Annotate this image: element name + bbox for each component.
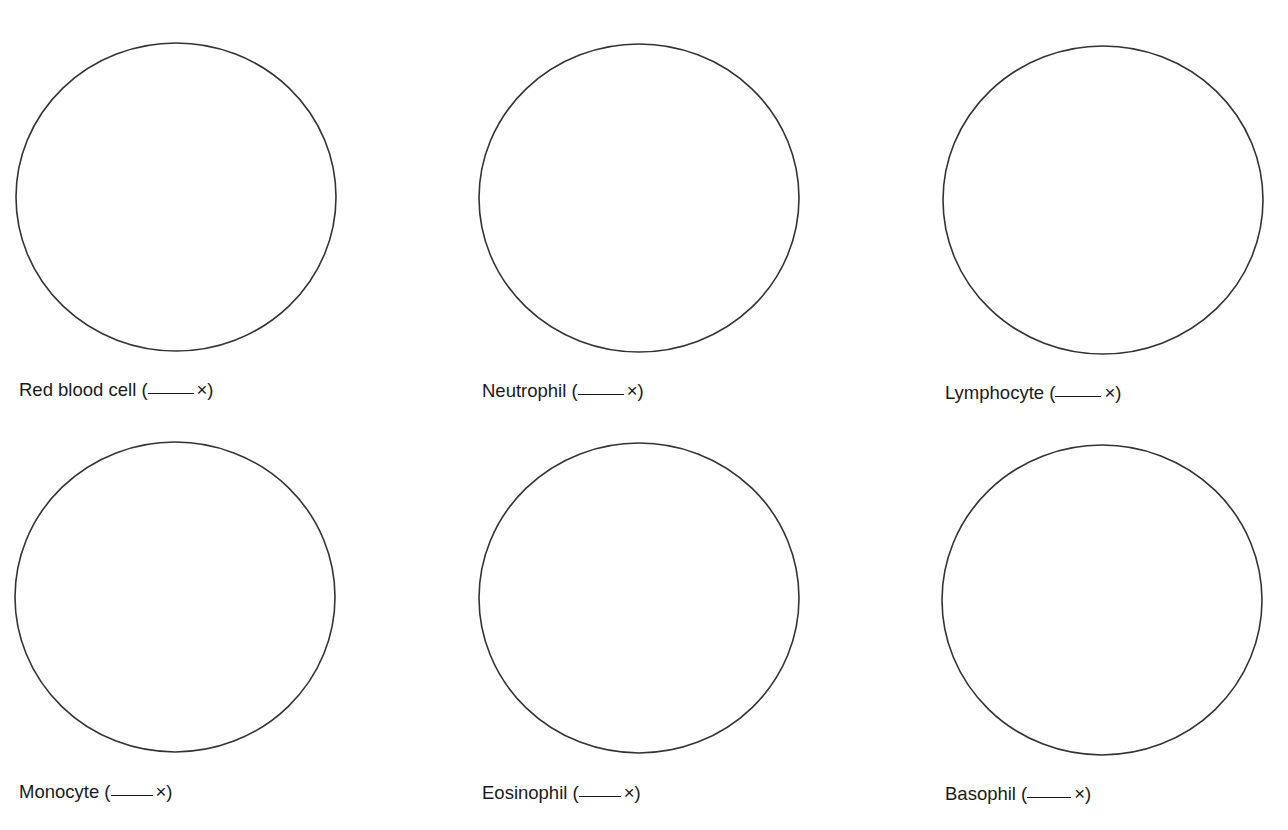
cell-name: Lymphocyte (945, 382, 1044, 403)
magnification-suffix: ×) (1074, 783, 1091, 804)
magnification-blank[interactable] (579, 795, 621, 797)
eosinophil-label: Eosinophil (×) (482, 784, 641, 803)
red-blood-cell-label: Red blood cell (×) (19, 381, 214, 400)
open-paren: ( (567, 782, 578, 803)
red-blood-cell-drawing-circle[interactable] (16, 43, 336, 351)
cell-name: Basophil (945, 783, 1016, 804)
neutrophil-drawing-circle[interactable] (479, 44, 799, 352)
eosinophil-drawing-circle[interactable] (479, 443, 799, 753)
magnification-suffix: ×) (197, 379, 214, 400)
basophil-drawing-circle[interactable] (942, 445, 1262, 755)
magnification-suffix: ×) (156, 781, 173, 802)
lymphocyte-label: Lymphocyte (×) (945, 384, 1121, 403)
magnification-suffix: ×) (624, 782, 641, 803)
cell-name: Monocyte (19, 781, 99, 802)
magnification-blank[interactable] (578, 393, 624, 395)
neutrophil-label: Neutrophil (×) (482, 382, 644, 401)
monocyte-label: Monocyte (×) (19, 783, 173, 802)
magnification-blank[interactable] (148, 392, 194, 394)
magnification-blank[interactable] (111, 794, 153, 796)
magnification-blank[interactable] (1055, 395, 1101, 397)
magnification-suffix: ×) (627, 380, 644, 401)
basophil-label: Basophil (×) (945, 785, 1091, 804)
open-paren: ( (1044, 382, 1055, 403)
monocyte-drawing-circle[interactable] (15, 442, 335, 752)
open-paren: ( (99, 781, 110, 802)
cell-name: Eosinophil (482, 782, 567, 803)
cell-name: Neutrophil (482, 380, 566, 401)
magnification-blank[interactable] (1027, 796, 1071, 798)
open-paren: ( (136, 379, 147, 400)
cell-name: Red blood cell (19, 379, 136, 400)
lymphocyte-drawing-circle[interactable] (943, 46, 1263, 354)
open-paren: ( (566, 380, 577, 401)
magnification-suffix: ×) (1104, 382, 1121, 403)
open-paren: ( (1016, 783, 1027, 804)
blood-cell-drawing-worksheet (0, 0, 1288, 830)
